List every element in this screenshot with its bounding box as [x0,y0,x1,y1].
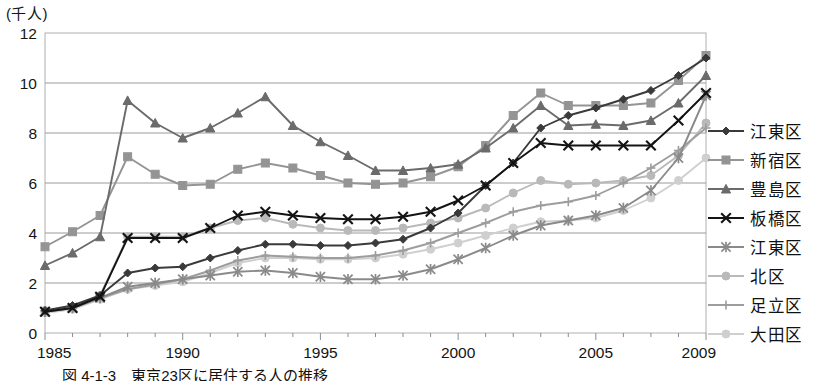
plus-marker [454,229,463,238]
x-axis-tick-label: 1985 [37,344,71,361]
diamond-marker [316,242,324,250]
diamond-marker [261,240,269,248]
legend-item-7[interactable]: 足立区 [706,290,803,319]
circle-marker [509,189,517,197]
y-axis-tick-label: 0 [28,325,37,342]
x-marker [453,196,463,206]
triangle-marker [701,71,710,80]
circle-marker [647,172,655,180]
legend-item-4[interactable]: 板橋区 [706,203,803,232]
circle-marker [706,325,746,343]
square-marker [316,172,324,180]
x-axis-tick-label: 1990 [165,344,200,361]
diamond-marker [564,112,572,120]
square-marker [509,112,517,120]
square-marker [399,179,407,187]
circle-marker [592,179,600,187]
legend-item-5[interactable]: 江東区 [706,232,803,261]
diamond-marker [706,122,746,140]
x-axis-tick-label: 1995 [303,344,337,361]
circle-marker [372,227,380,235]
diamond-marker [234,247,242,255]
triangle-marker [206,123,215,132]
x-marker [706,209,746,227]
square-marker [706,151,746,169]
legend-item-label: 江東区 [750,119,803,143]
circle-marker [674,177,682,185]
square-marker [261,159,269,167]
legend-item-label: 江東区 [750,235,803,259]
legend-item-label: 板橋区 [750,206,803,230]
diamond-marker [722,127,730,135]
square-marker [124,153,132,161]
y-axis-tick-label: 10 [20,75,38,92]
legend-item-label: 足立区 [750,293,803,317]
plus-marker [706,296,746,314]
diamond-marker [344,242,352,250]
plus-marker [591,191,600,200]
legend-item-3[interactable]: 豊島区 [706,174,803,203]
square-marker [372,180,380,188]
data-series [41,154,710,317]
x-axis-tick-label: 2005 [579,344,613,361]
legend-item-6[interactable]: 北区 [706,261,803,290]
circle-marker [722,330,730,338]
square-marker [41,243,49,251]
circle-marker [344,227,352,235]
diamond-marker [179,263,187,271]
legend-item-1[interactable]: 江東区 [706,116,803,145]
plus-marker [722,300,731,309]
triangle-marker [316,137,325,146]
asterisk-marker [706,238,746,256]
square-marker [722,156,730,164]
y-axis-tick-label: 6 [28,175,37,192]
square-marker [234,165,242,173]
diamond-marker [151,264,159,272]
circle-marker [316,224,324,232]
circle-marker [482,204,490,212]
triangle-marker [706,180,746,198]
legend-item-2[interactable]: 新宿区 [706,145,803,174]
asterisk-marker [646,185,655,196]
triangle-marker [68,248,77,257]
square-marker [179,182,187,190]
diamond-marker [289,240,297,248]
x-axis-tick-label: 2000 [441,344,476,361]
circle-marker [537,177,545,185]
legend-item-label: 豊島区 [750,177,803,201]
diamond-marker [206,254,214,262]
diamond-marker [372,239,380,247]
square-marker [289,164,297,172]
legend-item-label: 新宿区 [750,148,803,172]
square-marker [151,170,159,178]
plus-marker [536,201,545,210]
circle-marker [722,272,730,280]
legend-item-8[interactable]: 大田区 [706,319,803,348]
triangle-marker [233,108,242,117]
y-axis-tick-label: 12 [20,25,37,42]
triangle-marker [40,261,49,270]
plus-marker [564,197,573,206]
circle-marker [564,180,572,188]
y-axis-tick-label: 2 [28,275,37,292]
asterisk-marker [481,243,490,254]
circle-marker [289,220,297,228]
circle-marker [454,239,462,247]
legend-item-label: 北区 [750,264,785,288]
square-marker [564,102,572,110]
plus-marker [481,219,490,228]
asterisk-marker [509,230,518,241]
triangle-marker [123,96,132,105]
chart-legend: 江東区新宿区豊島区板橋区江東区北区足立区大田区 [706,116,803,348]
data-series [41,52,710,251]
figure-caption: 図 4-1-3 東京23区に居住する人の推移 [62,364,328,381]
plus-marker [509,207,518,216]
plus-marker [646,164,655,173]
square-marker [344,179,352,187]
triangle-marker [261,92,270,101]
square-marker [427,173,435,181]
square-marker [69,228,77,236]
y-axis-tick-label: 4 [28,225,37,242]
circle-marker [482,232,490,240]
diamond-marker [399,235,407,243]
